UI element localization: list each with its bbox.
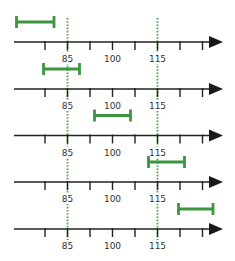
confidence-interval	[17, 16, 55, 28]
number-line-diagram: 8510011585100115851001158510011585100115	[0, 0, 235, 261]
tick-label-115: 115	[149, 241, 166, 251]
number-line-row: 85100115	[14, 110, 223, 158]
tick-label-100: 100	[104, 241, 121, 251]
confidence-interval	[179, 203, 214, 215]
number-line-row: 85100115	[14, 16, 223, 64]
number-line-row: 85100115	[14, 156, 223, 204]
tick-label-115: 115	[149, 148, 166, 158]
tick-label-85: 85	[62, 148, 73, 158]
confidence-interval	[95, 110, 131, 122]
number-lines: 8510011585100115851001158510011585100115	[14, 16, 223, 251]
number-line-row: 85100115	[14, 63, 223, 111]
arrow-right-icon	[209, 130, 223, 142]
tick-label-115: 115	[149, 101, 166, 111]
tick-label-100: 100	[104, 54, 121, 64]
number-line-row: 85100115	[14, 203, 223, 251]
tick-label-100: 100	[104, 148, 121, 158]
tick-label-85: 85	[62, 101, 73, 111]
confidence-interval	[44, 63, 80, 75]
tick-label-115: 115	[149, 54, 166, 64]
tick-label-85: 85	[62, 194, 73, 204]
confidence-interval	[149, 156, 185, 168]
tick-label-100: 100	[104, 101, 121, 111]
tick-label-85: 85	[62, 54, 73, 64]
tick-label-85: 85	[62, 241, 73, 251]
tick-label-100: 100	[104, 194, 121, 204]
tick-label-115: 115	[149, 194, 166, 204]
arrow-right-icon	[209, 36, 223, 48]
arrow-right-icon	[209, 223, 223, 235]
arrow-right-icon	[209, 176, 223, 188]
reference-lines	[68, 18, 158, 241]
arrow-right-icon	[209, 83, 223, 95]
